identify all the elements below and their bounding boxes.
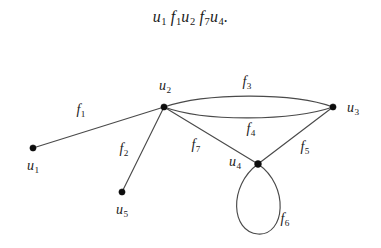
edge-label-f6-sub: 6 — [284, 218, 289, 228]
vertex-label-u5-base: u — [116, 202, 123, 217]
vertex-u2 — [161, 104, 167, 110]
edge-label-f3-sub: 3 — [246, 81, 251, 91]
vertex-label-u5-sub: 5 — [123, 209, 128, 219]
edge-label-f4-sub: 4 — [250, 128, 255, 138]
vertex-label-u4-base: u — [229, 154, 236, 169]
vertex-label-u2-base: u — [159, 78, 166, 93]
edge-f3 — [164, 96, 333, 107]
vertex-u4 — [255, 161, 262, 168]
vertex-label-u3: u3 — [347, 101, 359, 117]
vertex-u3 — [330, 104, 336, 110]
vertex-label-u3-base: u — [347, 100, 354, 115]
edge-label-f3: f3 — [243, 75, 252, 91]
edge-label-f1-sub: 1 — [80, 109, 85, 119]
edge-label-f1: f1 — [77, 103, 86, 119]
edge-label-f5-sub: 5 — [304, 146, 309, 156]
vertex-label-u3-sub: 3 — [354, 107, 359, 117]
edge-label-f6: f6 — [281, 212, 290, 228]
graph-canvas — [0, 0, 381, 248]
vertex-label-u4-sub: 4 — [236, 161, 241, 171]
vertex-label-u4: u4 — [229, 155, 241, 171]
edge-f4 — [164, 107, 333, 118]
edge-label-f5: f5 — [301, 140, 310, 156]
edge-label-f7-sub: 7 — [195, 144, 200, 154]
vertex-u1 — [30, 145, 36, 151]
vertex-label-u1-sub: 1 — [34, 165, 39, 175]
edge-label-f7: f7 — [192, 138, 201, 154]
vertex-u5 — [119, 189, 125, 195]
edge-label-f4: f4 — [247, 122, 256, 138]
vertex-label-u5: u5 — [116, 203, 128, 219]
edge-f1 — [33, 107, 164, 148]
edge-f6-self-loop — [237, 164, 281, 234]
edge-label-f2-sub: 2 — [123, 148, 128, 158]
vertex-label-u1-base: u — [27, 158, 34, 173]
edge-label-f2: f2 — [120, 142, 129, 158]
vertex-label-u2-sub: 2 — [166, 85, 171, 95]
edge-f7 — [164, 107, 258, 164]
vertex-label-u2: u2 — [159, 79, 171, 95]
vertex-label-u1: u1 — [27, 159, 39, 175]
multigraph-figure: u1 u2 u3 u4 u5 f1 f2 f3 f4 f5 f6 f7 — [0, 0, 381, 248]
